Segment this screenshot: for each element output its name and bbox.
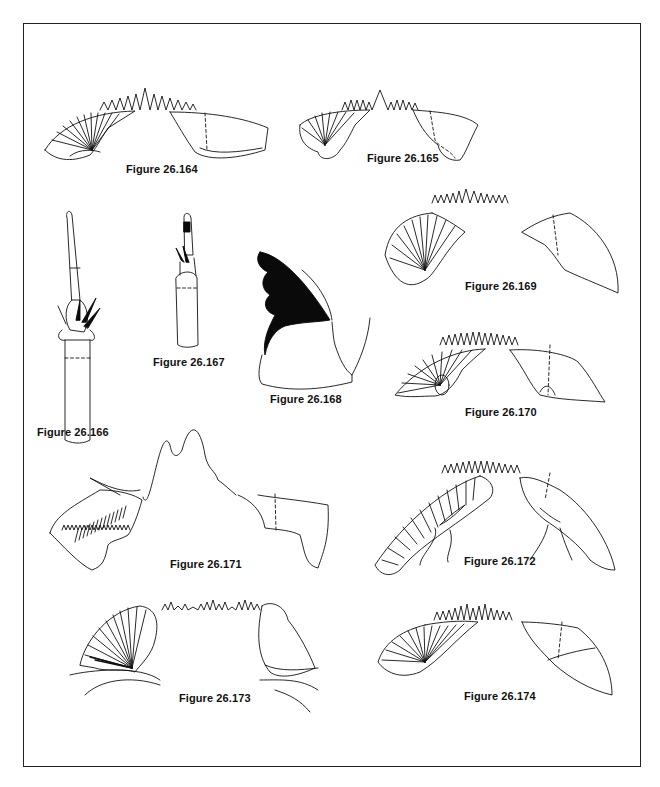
figure-167-antenna-drawing bbox=[176, 213, 198, 347]
figure-172-caption: Figure 26.172 bbox=[464, 555, 536, 567]
figure-165-mentum-drawing bbox=[300, 90, 478, 160]
figure-174-caption: Figure 26.174 bbox=[464, 690, 536, 702]
figure-164-mentum-drawing bbox=[45, 88, 268, 160]
figure-164-caption: Figure 26.164 bbox=[126, 163, 198, 175]
figure-168-caption: Figure 26.168 bbox=[270, 393, 342, 405]
figure-166-caption: Figure 26.166 bbox=[37, 426, 109, 438]
figure-170-caption: Figure 26.170 bbox=[465, 406, 537, 418]
figure-169-caption: Figure 26.169 bbox=[465, 280, 537, 292]
figure-167-caption: Figure 26.167 bbox=[153, 356, 225, 368]
figure-171-mentum-drawing bbox=[50, 430, 328, 570]
figure-170-mentum-drawing bbox=[395, 332, 605, 402]
figure-173-caption: Figure 26.173 bbox=[179, 692, 251, 704]
figure-165-caption: Figure 26.165 bbox=[367, 152, 439, 164]
figure-168-mandible-drawing bbox=[258, 252, 370, 389]
figure-174-mentum-drawing bbox=[378, 604, 612, 695]
figure-171-caption: Figure 26.171 bbox=[170, 558, 242, 570]
figure-166-antenna-drawing bbox=[58, 211, 100, 443]
figure-169-mentum-drawing bbox=[385, 189, 618, 293]
